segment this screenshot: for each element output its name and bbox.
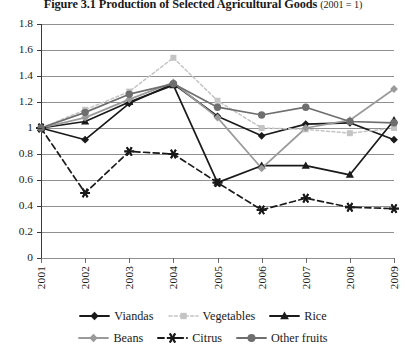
x-axis-label: 2003: [123, 266, 135, 289]
y-axis-tick: [37, 76, 42, 77]
x-axis-label: 2005: [212, 266, 224, 289]
square-marker: [180, 313, 186, 319]
x-axis-tick: [85, 258, 86, 263]
series-markers-other-fruits: [37, 80, 397, 132]
asterisk-marker: [301, 194, 311, 202]
asterisk-marker: [345, 203, 355, 211]
x-axis-label: 2002: [79, 266, 91, 289]
x-axis-tick: [218, 258, 219, 263]
asterisk-marker: [389, 204, 399, 212]
legend-swatch-diamond-marker: [78, 331, 109, 345]
x-axis-label: 2008: [344, 266, 356, 289]
y-axis-tick: [37, 180, 42, 181]
legend-item-citrus[interactable]: Citrus: [157, 331, 222, 346]
legend-swatch-diamond-marker: [79, 309, 110, 323]
legend-row-1: ViandasVegetablesRice: [0, 305, 406, 327]
circle-marker: [258, 111, 265, 118]
circle-marker: [170, 80, 177, 87]
legend-swatch-circle-marker: [236, 331, 267, 345]
legend-swatch-triangle-marker: [269, 309, 300, 323]
y-axis-label: 0.8: [0, 148, 33, 159]
square-marker: [347, 130, 353, 136]
y-axis-tick: [37, 206, 42, 207]
series-line-citrus: [41, 128, 394, 210]
y-axis-label: 0: [0, 252, 33, 263]
x-axis-tick: [350, 258, 351, 263]
y-axis-tick: [37, 24, 42, 25]
asterisk-marker: [167, 333, 178, 342]
series-markers-beans: [37, 79, 398, 173]
series-layer: [0, 0, 406, 352]
circle-marker: [214, 103, 221, 110]
x-axis-tick: [394, 258, 395, 263]
y-axis-label: 0.4: [0, 200, 33, 211]
diamond-marker: [90, 334, 98, 342]
y-axis-label: 1.4: [0, 70, 33, 81]
legend-label: Vegetables: [203, 309, 256, 324]
legend-row-2: BeansCitrusOther fruits: [0, 327, 406, 349]
y-axis-tick: [37, 232, 42, 233]
x-axis-label: 2006: [256, 266, 268, 289]
circle-marker: [248, 334, 256, 342]
legend-label: Beans: [113, 331, 143, 346]
y-axis-label: 1.2: [0, 96, 33, 107]
y-axis-tick: [37, 102, 42, 103]
legend-swatch-asterisk-marker: [157, 331, 188, 345]
x-axis-label: 2001: [35, 266, 47, 289]
circle-marker: [81, 109, 88, 116]
x-axis-tick: [173, 258, 174, 263]
series-line-viandas: [41, 84, 394, 140]
circle-marker: [390, 119, 397, 126]
y-axis-tick: [37, 50, 42, 51]
square-marker: [170, 55, 176, 61]
x-axis-tick: [306, 258, 307, 263]
y-axis-tick: [37, 154, 42, 155]
x-axis-tick: [129, 258, 130, 263]
y-axis-label: 1.6: [0, 44, 33, 55]
series-line-beans: [41, 83, 394, 169]
legend-label: Other fruits: [271, 331, 328, 346]
y-axis-label: 0.2: [0, 226, 33, 237]
legend-item-vegetables[interactable]: Vegetables: [168, 309, 256, 324]
series-markers-vegetables: [38, 55, 397, 136]
legend-label: Viandas: [114, 309, 153, 324]
diamond-marker: [390, 136, 398, 144]
y-axis-label: 1.8: [0, 18, 33, 29]
square-marker: [215, 98, 221, 104]
legend-item-rice[interactable]: Rice: [269, 309, 326, 324]
legend-swatch-square-marker: [168, 309, 199, 323]
y-axis-label: 0.6: [0, 174, 33, 185]
legend-label: Citrus: [192, 331, 222, 346]
legend-label: Rice: [304, 309, 326, 324]
chart-legend: ViandasVegetablesRice BeansCitrusOther f…: [0, 305, 406, 349]
x-axis-tick: [41, 258, 42, 263]
legend-item-beans[interactable]: Beans: [78, 331, 143, 346]
diamond-marker: [91, 312, 99, 320]
series-markers-citrus: [36, 124, 399, 214]
diamond-marker: [258, 132, 266, 140]
circle-marker: [346, 118, 353, 125]
circle-marker: [302, 103, 309, 110]
x-axis-label: 2004: [167, 266, 179, 289]
circle-marker: [126, 90, 133, 97]
y-axis-tick: [37, 128, 42, 129]
y-axis-label: 1: [0, 122, 33, 133]
x-axis-label: 2009: [388, 266, 400, 289]
square-marker: [259, 125, 265, 131]
x-axis-label: 2007: [300, 266, 312, 289]
legend-item-viandas[interactable]: Viandas: [79, 309, 153, 324]
x-axis-tick: [262, 258, 263, 263]
figure-container: Figure 3.1 Production of Selected Agricu…: [0, 0, 406, 352]
legend-item-other-fruits[interactable]: Other fruits: [236, 331, 328, 346]
